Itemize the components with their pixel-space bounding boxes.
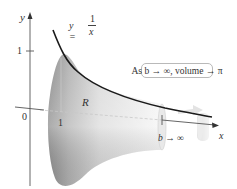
equation-denominator: x [89, 26, 93, 37]
callout-box: As b → ∞, volume → π [141, 63, 213, 78]
ghost-disc [197, 113, 209, 141]
limit-label-text: b → ∞ [158, 133, 184, 143]
region-label: R [82, 97, 89, 108]
y-tick-label: 1 [17, 46, 22, 56]
horn-diagram-svg [0, 0, 237, 189]
x-tick-label: 1 [58, 118, 63, 128]
callout-text: As b → ∞, volume → π [132, 66, 223, 76]
x-axis-label: x [219, 131, 223, 141]
y-axis-label: y [20, 12, 25, 23]
horn-figure: y 1 0 1 x y = 1 x R b → ∞ As b → ∞, volu… [0, 0, 237, 189]
origin-label: 0 [22, 112, 27, 122]
equation-lhs: y = [69, 20, 76, 42]
equation-numerator: 1 [90, 13, 95, 24]
y-axis [26, 12, 34, 186]
limit-label: b → ∞ [158, 134, 184, 144]
